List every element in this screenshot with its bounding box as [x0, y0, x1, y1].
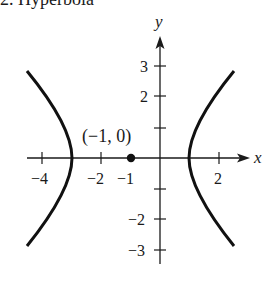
hyperbola-graph: x y −4 −2 −1 2 3 2 −2 −3 (−1, 0) — [0, 0, 274, 281]
x-axis: x — [27, 148, 262, 167]
center-point-label: (−1, 0) — [82, 126, 131, 147]
x-tick-label: −2 — [87, 170, 104, 187]
y-axis-label: y — [153, 12, 163, 31]
center-point-marker — [127, 154, 135, 162]
y-axis: y — [153, 12, 165, 264]
x-tick-label: −1 — [117, 170, 134, 187]
y-tick-label: 2 — [140, 88, 148, 105]
y-tick-label: −2 — [128, 211, 145, 228]
y-tick-label: −3 — [128, 242, 145, 259]
x-tick-label: −4 — [31, 170, 48, 187]
x-tick-label: 2 — [214, 170, 222, 187]
x-axis-label: x — [253, 148, 262, 167]
y-tick-label: 3 — [140, 58, 148, 75]
